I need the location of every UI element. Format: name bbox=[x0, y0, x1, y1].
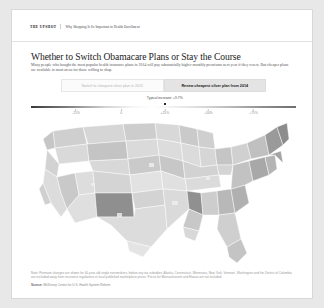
footnote-source: Source: McKinsey Center for U.S. Health … bbox=[31, 283, 295, 287]
legend-tick-minus25: -25% bbox=[72, 109, 80, 116]
page-subtitle: Many people who bought the most popular … bbox=[31, 63, 293, 73]
footnote-note: Note: Premium changes are shown for 40-y… bbox=[31, 271, 295, 280]
breadcrumb-link[interactable]: Why Shopping Is So Important in Health E… bbox=[65, 24, 139, 30]
source-value: McKinsey Center for U.S. Health System R… bbox=[43, 283, 110, 287]
legend-tick-row: -25% 0 +25% +50% +75% bbox=[31, 109, 296, 116]
scenario-toggle-group: Switch to cheapest silver plan in 2015 R… bbox=[61, 79, 266, 92]
breadcrumb: The Upshot Why Shopping Is So Important … bbox=[12, 24, 312, 42]
source-label: Source: bbox=[31, 283, 43, 287]
legend-tick-plus50: +50% bbox=[204, 109, 213, 116]
footnotes: Note: Premium changes are shown for 40-y… bbox=[31, 271, 295, 287]
legend-marker-icon bbox=[164, 103, 166, 105]
brand-logo[interactable]: The Upshot bbox=[30, 24, 56, 30]
breadcrumb-separator bbox=[60, 24, 61, 29]
toggle-renew-cheapest-2014[interactable]: Renew cheapest silver plan from 2014 bbox=[164, 79, 267, 92]
toggle-switch-cheapest-2015[interactable]: Switch to cheapest silver plan in 2015 bbox=[61, 79, 164, 92]
color-legend: Typical increase: +9.7% -25% 0 +25% +50%… bbox=[31, 96, 296, 116]
legend-tick-zero: 0 bbox=[120, 109, 122, 116]
us-county-map-svg bbox=[31, 117, 296, 269]
legend-annotation: Typical increase: +9.7% bbox=[147, 96, 183, 100]
page-title: Whether to Switch Obamacare Plans or Sta… bbox=[31, 51, 296, 62]
choropleth-map[interactable] bbox=[31, 117, 296, 269]
article-card: The Upshot Why Shopping Is So Important … bbox=[11, 9, 313, 299]
legend-tick-plus75: +75% bbox=[249, 109, 258, 116]
legend-tick-plus25: +25% bbox=[161, 109, 170, 116]
